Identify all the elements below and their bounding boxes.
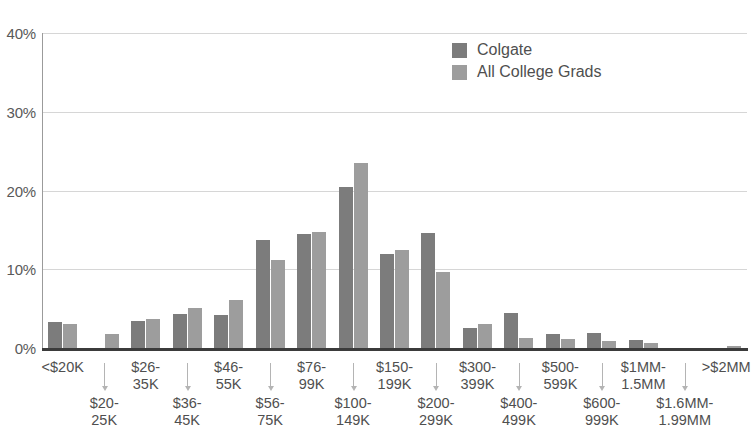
bar-all-college-grads bbox=[395, 250, 409, 348]
bar-all-college-grads bbox=[105, 334, 119, 348]
bar-all-college-grads bbox=[436, 272, 450, 348]
bar-colgate bbox=[131, 321, 145, 348]
bar-all-college-grads bbox=[188, 308, 202, 348]
x-tick-label: <$20K bbox=[25, 359, 101, 376]
bar-colgate bbox=[297, 234, 311, 348]
legend-label: All College Grads bbox=[477, 64, 602, 80]
bar-all-college-grads bbox=[229, 300, 243, 348]
bar-all-college-grads bbox=[519, 338, 533, 348]
bar-group bbox=[421, 33, 450, 348]
x-tick-label: $600- 999K bbox=[564, 395, 640, 429]
bar-group bbox=[48, 33, 77, 348]
bar-colgate bbox=[421, 233, 435, 348]
x-tick-label: $200- 299K bbox=[398, 395, 474, 429]
bars-layer bbox=[42, 33, 747, 348]
x-tick-label: >$2MM bbox=[688, 359, 755, 376]
x-axis-labels: <$20K$20- 25K$26- 35K$36- 45K$46- 55K$56… bbox=[42, 353, 747, 442]
x-tick-label: $400- 499K bbox=[481, 395, 557, 429]
bar-colgate bbox=[173, 314, 187, 348]
tick-arrow-icon bbox=[187, 363, 188, 387]
x-axis-line bbox=[42, 348, 748, 351]
bar-all-college-grads bbox=[478, 324, 492, 348]
bar-colgate bbox=[463, 328, 477, 348]
y-tick-label: 0% bbox=[15, 341, 36, 356]
x-tick-label: $150- 199K bbox=[357, 359, 433, 393]
y-tick-label: 20% bbox=[7, 184, 36, 199]
legend-item[interactable]: Colgate bbox=[452, 42, 602, 58]
bar-all-college-grads bbox=[271, 260, 285, 348]
bar-group bbox=[629, 33, 658, 348]
bar-group bbox=[297, 33, 326, 348]
x-tick-label: $300- 399K bbox=[439, 359, 515, 393]
bar-colgate bbox=[380, 254, 394, 349]
bar-group bbox=[463, 33, 492, 348]
bar-group bbox=[504, 33, 533, 348]
income-distribution-bar-chart: 0%10%20%30%40% ColgateAll College Grads … bbox=[0, 0, 755, 442]
bar-group bbox=[131, 33, 160, 348]
legend-item[interactable]: All College Grads bbox=[452, 64, 602, 80]
tick-arrow-icon bbox=[270, 363, 271, 387]
bar-colgate bbox=[214, 315, 228, 348]
bar-colgate bbox=[256, 240, 270, 348]
bar-group bbox=[670, 33, 699, 348]
bar-group bbox=[173, 33, 202, 348]
x-tick-label: $26- 35K bbox=[108, 359, 184, 393]
chart-legend: ColgateAll College Grads bbox=[452, 42, 602, 80]
tick-arrow-icon bbox=[519, 363, 520, 387]
tick-arrow-icon bbox=[685, 363, 686, 387]
x-tick-label: $56- 75K bbox=[232, 395, 308, 429]
bar-all-college-grads bbox=[602, 341, 616, 348]
x-tick-label: $36- 45K bbox=[149, 395, 225, 429]
bar-colgate bbox=[546, 334, 560, 348]
bar-group bbox=[712, 33, 741, 348]
y-tick-label: 30% bbox=[7, 105, 36, 120]
bar-group bbox=[90, 33, 119, 348]
y-tick-label: 10% bbox=[7, 262, 36, 277]
x-tick-label: $76- 99K bbox=[274, 359, 350, 393]
tick-arrow-icon bbox=[602, 363, 603, 387]
bar-colgate bbox=[339, 187, 353, 348]
bar-group bbox=[339, 33, 368, 348]
bar-all-college-grads bbox=[312, 232, 326, 348]
tick-arrow-icon bbox=[353, 363, 354, 387]
x-tick-label: $100- 149K bbox=[315, 395, 391, 429]
bar-all-college-grads bbox=[63, 324, 77, 348]
bar-all-college-grads bbox=[727, 346, 741, 348]
legend-swatch-colgate bbox=[452, 43, 467, 58]
x-tick-label: $1MM- 1.5MM bbox=[605, 359, 681, 393]
bar-colgate bbox=[504, 313, 518, 348]
bar-colgate bbox=[629, 340, 643, 348]
x-tick-label: $20- 25K bbox=[66, 395, 142, 429]
bar-all-college-grads bbox=[561, 339, 575, 348]
bar-group bbox=[256, 33, 285, 348]
x-tick-label: $1.6MM- 1.99MM bbox=[647, 395, 723, 429]
bar-group bbox=[587, 33, 616, 348]
bar-group bbox=[380, 33, 409, 348]
bar-colgate bbox=[48, 322, 62, 348]
bar-group bbox=[546, 33, 575, 348]
bar-all-college-grads bbox=[354, 163, 368, 348]
bar-group bbox=[214, 33, 243, 348]
tick-arrow-icon bbox=[104, 363, 105, 387]
tick-arrow-icon bbox=[436, 363, 437, 387]
legend-label: Colgate bbox=[477, 42, 532, 58]
y-tick-label: 40% bbox=[7, 26, 36, 41]
bar-colgate bbox=[587, 333, 601, 348]
x-tick-label: $46- 55K bbox=[191, 359, 267, 393]
legend-swatch-all-college-grads bbox=[452, 65, 467, 80]
bar-all-college-grads bbox=[644, 343, 658, 348]
bar-all-college-grads bbox=[146, 319, 160, 348]
x-tick-label: $500- 599K bbox=[522, 359, 598, 393]
